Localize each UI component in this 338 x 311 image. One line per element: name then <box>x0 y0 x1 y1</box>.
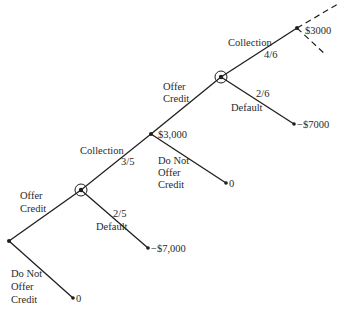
value-terminal-default-2: −$7000 <box>297 119 329 130</box>
value-terminal-default-1: −$7,000 <box>151 243 186 254</box>
label-do-not-offer-1-line1: Do Not <box>11 268 42 279</box>
decision-tree-diagram: Offer Credit Do Not Offer Credit Collect… <box>0 0 338 311</box>
root-decision-node <box>7 239 11 243</box>
label-offer-credit-1-line1: Offer <box>20 190 43 201</box>
chance-node-2 <box>219 75 223 79</box>
label-do-not-offer-1-line3: Credit <box>11 294 37 305</box>
terminal-no-offer-2 <box>224 181 228 185</box>
decision-node-2 <box>149 132 153 136</box>
label-do-not-offer-1-line2: Offer <box>11 281 34 292</box>
terminal-collect-2 <box>295 26 299 30</box>
label-do-not-offer-2-line2: Offer <box>158 167 181 178</box>
label-do-not-offer-2-line1: Do Not <box>158 155 189 166</box>
edge-collection-2 <box>221 28 297 77</box>
label-prob-collection-1: 3/5 <box>121 156 134 167</box>
value-terminal-no-offer-1: 0 <box>76 293 81 304</box>
terminal-default-1 <box>146 246 150 250</box>
label-offer-credit-1-line2: Credit <box>20 203 46 214</box>
value-terminal-collect-2: $3000 <box>305 25 331 36</box>
terminal-no-offer-1 <box>71 296 75 300</box>
value-decision-node-2: $3,000 <box>158 129 187 140</box>
terminal-default-2 <box>292 122 296 126</box>
edge-default-1 <box>81 190 148 248</box>
edge-collection-1 <box>81 134 151 190</box>
edge-offer-credit-2 <box>151 77 221 134</box>
value-terminal-no-offer-2: 0 <box>229 178 234 189</box>
label-collection-1: Collection <box>80 145 124 156</box>
label-prob-collection-2: 4/6 <box>264 49 277 60</box>
label-prob-default-2: 2/6 <box>256 88 269 99</box>
label-prob-default-1: 2/5 <box>113 208 126 219</box>
edge-default-2 <box>221 77 294 124</box>
label-default-1: Default <box>96 221 128 232</box>
label-offer-credit-2-line2: Credit <box>163 93 189 104</box>
label-do-not-offer-2-line3: Credit <box>158 179 184 190</box>
chance-node-1 <box>79 188 83 192</box>
label-default-2: Default <box>231 102 263 113</box>
label-offer-credit-2-line1: Offer <box>163 81 186 92</box>
label-collection-2: Collection <box>228 37 272 48</box>
